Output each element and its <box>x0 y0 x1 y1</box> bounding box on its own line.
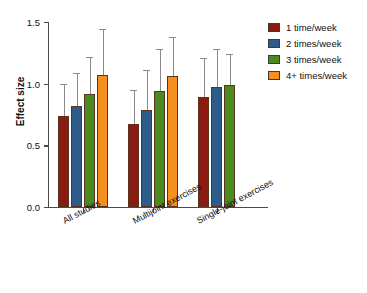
y-axis-title: Effect size <box>15 62 26 142</box>
y-axis-tick <box>44 22 48 23</box>
bar <box>141 110 152 207</box>
bar-chart-figure: Effect size 0.00.51.01.5 All studiesMult… <box>0 0 367 293</box>
error-bar-cap <box>200 58 207 59</box>
legend-item: 4+ times/week <box>268 70 347 81</box>
error-bar-cap <box>156 49 163 50</box>
error-bar-line <box>77 73 78 106</box>
legend-swatch-icon <box>268 55 280 64</box>
legend: 1 time/week2 times/week3 times/week4+ ti… <box>268 22 347 81</box>
error-bar-cap <box>130 90 137 91</box>
bar <box>128 124 139 207</box>
bar <box>58 116 69 207</box>
error-bar-cap <box>226 54 233 55</box>
bar <box>71 106 82 207</box>
y-axis-line <box>48 22 49 207</box>
y-tick-label: 1.5 <box>14 17 40 28</box>
error-bar-line <box>134 90 135 125</box>
bar <box>167 76 178 207</box>
legend-item: 1 time/week <box>268 22 347 33</box>
bar <box>224 85 235 207</box>
y-tick-label: 0.0 <box>14 202 40 213</box>
y-axis-tick <box>44 145 48 146</box>
error-bar-line <box>147 70 148 109</box>
legend-label: 1 time/week <box>286 22 337 33</box>
bar <box>84 94 95 207</box>
error-bar-line <box>103 29 104 75</box>
bar <box>154 91 165 207</box>
error-bar-cap <box>99 29 106 30</box>
error-bar-cap <box>73 73 80 74</box>
legend-label: 2 times/week <box>286 38 341 49</box>
y-axis-tick <box>44 84 48 85</box>
legend-swatch-icon <box>268 39 280 48</box>
bar <box>97 75 108 207</box>
error-bar-cap <box>60 84 67 85</box>
legend-swatch-icon <box>268 23 280 32</box>
legend-label: 3 times/week <box>286 54 341 65</box>
error-bar-cap <box>213 49 220 50</box>
error-bar-cap <box>143 70 150 71</box>
legend-item: 2 times/week <box>268 38 347 49</box>
legend-swatch-icon <box>268 71 280 80</box>
error-bar-line <box>173 37 174 76</box>
error-bar-line <box>64 84 65 116</box>
legend-label: 4+ times/week <box>286 70 347 81</box>
bar <box>211 87 222 207</box>
y-tick-label: 0.5 <box>14 140 40 151</box>
error-bar-line <box>230 54 231 85</box>
error-bar-cap <box>86 57 93 58</box>
error-bar-line <box>217 49 218 87</box>
error-bar-line <box>204 58 205 97</box>
y-axis-tick <box>44 207 48 208</box>
error-bar-line <box>160 49 161 91</box>
error-bar-cap <box>169 37 176 38</box>
y-tick-label: 1.0 <box>14 78 40 89</box>
legend-item: 3 times/week <box>268 54 347 65</box>
error-bar-line <box>90 57 91 94</box>
